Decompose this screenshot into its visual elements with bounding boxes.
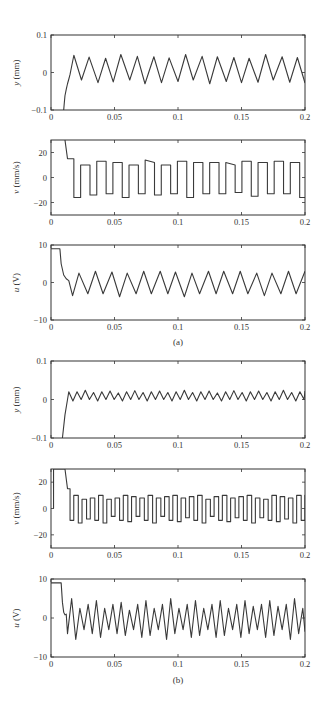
y-tick-label: 0.1: [36, 30, 47, 40]
x-tick-label: 0.05: [107, 112, 122, 122]
y-tick-label: 0: [43, 395, 47, 405]
y-tick-label: 20: [39, 148, 48, 158]
y-tick-label: 0: [43, 504, 47, 514]
x-tick-label: 0: [49, 440, 53, 450]
series-line: [51, 249, 305, 297]
y-tick-label: −0.1: [32, 105, 47, 115]
subplot-b-u: 00.050.10.150.2−10010u (V): [11, 574, 310, 669]
series-line: [62, 390, 305, 438]
y-tick-label: 0: [43, 173, 47, 183]
x-tick-label: 0.2: [300, 322, 311, 332]
y-axis-label: y (mm): [11, 59, 21, 86]
subplot-a-v: 00.050.10.150.2−20020v (mm/s): [11, 140, 310, 227]
subplot-a-y: 00.050.10.150.2−0.100.1y (mm): [11, 30, 310, 122]
y-tick-label: 0: [43, 613, 47, 623]
y-axis-label: v (mm/s): [11, 161, 21, 193]
x-tick-label: 0: [49, 550, 53, 560]
series-line: [64, 55, 305, 111]
x-tick-label: 0.15: [234, 659, 249, 669]
y-tick-label: −20: [34, 530, 47, 540]
x-tick-label: 0.05: [107, 550, 122, 560]
y-tick-label: 20: [39, 477, 48, 487]
subplot-b-v: 00.050.10.150.2−20020v (mm/s): [11, 469, 310, 560]
axes-frame: [51, 245, 305, 320]
x-tick-label: 0.2: [300, 440, 311, 450]
x-tick-label: 0.2: [300, 659, 311, 669]
x-tick-label: 0.2: [300, 217, 311, 227]
axes-frame: [51, 579, 305, 657]
y-axis-label: u (V): [11, 608, 21, 627]
y-tick-label: −20: [34, 198, 47, 208]
y-tick-label: −10: [34, 652, 47, 662]
x-tick-label: 0.1: [173, 322, 184, 332]
y-tick-label: 10: [39, 240, 48, 250]
x-tick-label: 0.05: [107, 217, 122, 227]
x-tick-label: 0.05: [107, 659, 122, 669]
x-tick-label: 0: [49, 217, 53, 227]
axes-frame: [51, 469, 305, 548]
x-tick-label: 0: [49, 322, 53, 332]
x-tick-label: 0: [49, 112, 53, 122]
x-tick-label: 0.2: [300, 112, 311, 122]
y-axis-label: u (V): [11, 273, 21, 292]
series-line: [54, 469, 305, 523]
y-tick-label: 0: [43, 68, 47, 78]
x-tick-label: 0.1: [173, 217, 184, 227]
y-axis-label: v (mm/s): [11, 492, 21, 524]
axes-frame: [51, 35, 305, 110]
figure: 00.050.10.150.2−0.100.1y (mm)00.050.10.1…: [0, 0, 327, 709]
series-line: [65, 140, 305, 198]
x-tick-label: 0.2: [300, 550, 311, 560]
y-axis-label: y (mm): [11, 386, 21, 413]
caption-a: (a): [173, 337, 183, 347]
x-tick-label: 0.1: [173, 550, 184, 560]
x-tick-label: 0.05: [107, 322, 122, 332]
x-tick-label: 0.15: [234, 550, 249, 560]
x-tick-label: 0: [49, 659, 53, 669]
x-tick-label: 0.15: [234, 217, 249, 227]
x-tick-label: 0.1: [173, 112, 184, 122]
x-tick-label: 0.1: [173, 440, 184, 450]
subplot-b-y: 00.050.10.150.2−0.100.1y (mm): [11, 356, 310, 450]
y-tick-label: −0.1: [32, 433, 47, 443]
x-tick-label: 0.1: [173, 659, 184, 669]
x-tick-label: 0.05: [107, 440, 122, 450]
caption-b: (b): [173, 675, 184, 685]
series-line: [51, 583, 305, 640]
y-tick-label: 0: [43, 278, 47, 288]
y-tick-label: 0.1: [36, 356, 47, 366]
y-tick-label: −10: [34, 315, 47, 325]
x-tick-label: 0.15: [234, 322, 249, 332]
x-tick-label: 0.15: [234, 112, 249, 122]
y-tick-label: 10: [39, 574, 48, 584]
x-tick-label: 0.15: [234, 440, 249, 450]
subplot-a-u: 00.050.10.150.2−10010u (V): [11, 240, 310, 332]
